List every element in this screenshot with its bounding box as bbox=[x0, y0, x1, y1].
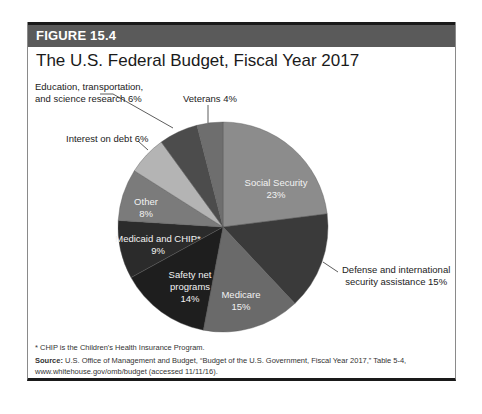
label-medicare: Medicare 15% bbox=[221, 289, 260, 313]
source-text: U.S. Office of Management and Budget, “B… bbox=[63, 356, 406, 365]
label-interest: Interest on debt 6% bbox=[66, 133, 148, 145]
label-veterans: Veterans 4% bbox=[183, 93, 237, 105]
label-medicaid: Medicaid and CHIP* 9% bbox=[115, 233, 201, 257]
source-label: Source: bbox=[35, 356, 63, 365]
source-note: Source: U.S. Office of Management and Bu… bbox=[35, 355, 406, 377]
label-defense: Defense and international security assis… bbox=[342, 264, 450, 288]
label-other: Other 8% bbox=[134, 196, 158, 220]
label-safety-net: Safety net programs 14% bbox=[169, 269, 212, 305]
footnote: * CHIP is the Children's Health Insuranc… bbox=[35, 342, 205, 353]
source-url: www.whitehouse.gov/omb/budget (accessed … bbox=[35, 366, 406, 377]
leader-line-defense bbox=[323, 262, 338, 272]
label-social-security: Social Security 23% bbox=[245, 177, 308, 201]
label-education: Education, transportation, and science r… bbox=[35, 81, 143, 105]
pie-slice-social-security bbox=[223, 122, 327, 227]
